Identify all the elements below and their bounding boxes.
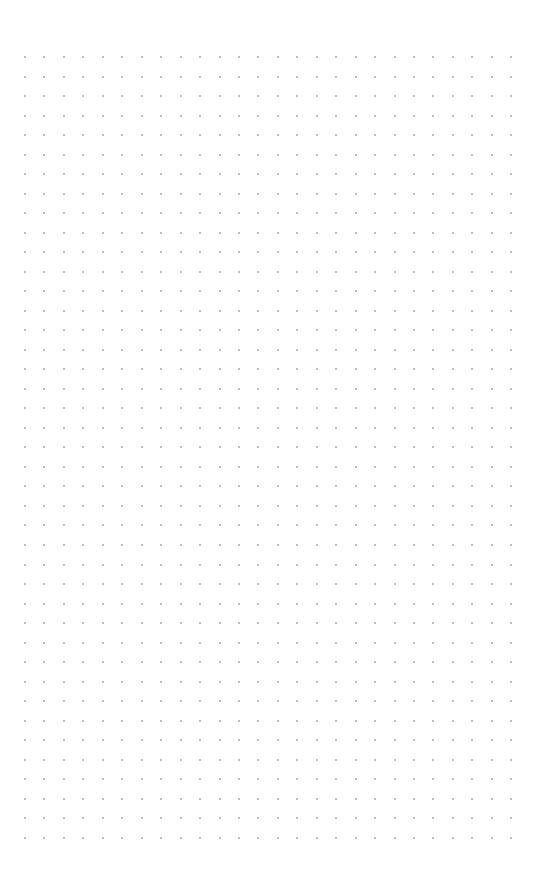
- grid-dot: [141, 622, 143, 624]
- grid-dot: [335, 798, 337, 800]
- grid-dot: [199, 798, 201, 800]
- grid-dot: [491, 622, 493, 624]
- grid-dot: [355, 661, 357, 663]
- grid-dot: [219, 798, 221, 800]
- grid-dot: [491, 739, 493, 741]
- grid-dot: [219, 154, 221, 156]
- grid-dot: [471, 798, 473, 800]
- grid-dot: [432, 798, 434, 800]
- grid-dot: [257, 407, 259, 409]
- grid-dot: [491, 817, 493, 819]
- grid-dot: [199, 446, 201, 448]
- grid-dot: [374, 798, 376, 800]
- grid-dot: [141, 173, 143, 175]
- grid-dot: [296, 368, 298, 370]
- grid-dot: [394, 603, 396, 605]
- grid-dot: [432, 407, 434, 409]
- grid-dot: [160, 193, 162, 195]
- grid-dot: [296, 466, 298, 468]
- grid-dot: [141, 310, 143, 312]
- grid-dot: [24, 388, 26, 390]
- grid-dot: [238, 524, 240, 526]
- grid-dot: [141, 700, 143, 702]
- grid-dot: [316, 739, 318, 741]
- grid-dot: [413, 271, 415, 273]
- grid-dot: [491, 329, 493, 331]
- grid-dot: [82, 290, 84, 292]
- grid-dot: [102, 251, 104, 253]
- grid-dot: [277, 329, 279, 331]
- grid-dot: [257, 95, 259, 97]
- grid-dot: [82, 466, 84, 468]
- grid-dot: [316, 193, 318, 195]
- grid-dot: [63, 837, 65, 839]
- grid-dot: [82, 232, 84, 234]
- grid-dot: [355, 193, 357, 195]
- grid-dot: [63, 603, 65, 605]
- grid-dot: [510, 329, 512, 331]
- grid-dot: [277, 56, 279, 58]
- grid-dot: [141, 349, 143, 351]
- grid-dot: [491, 95, 493, 97]
- grid-dot: [219, 193, 221, 195]
- grid-dot: [180, 446, 182, 448]
- grid-dot: [471, 603, 473, 605]
- grid-dot: [141, 544, 143, 546]
- grid-dot: [452, 232, 454, 234]
- grid-dot: [510, 407, 512, 409]
- grid-dot: [238, 329, 240, 331]
- grid-dot: [160, 154, 162, 156]
- grid-dot: [471, 700, 473, 702]
- grid-dot: [316, 349, 318, 351]
- grid-dot: [452, 485, 454, 487]
- grid-dot: [355, 446, 357, 448]
- grid-dot: [452, 134, 454, 136]
- grid-dot: [160, 778, 162, 780]
- grid-dot: [63, 564, 65, 566]
- grid-dot: [413, 485, 415, 487]
- grid-dot: [43, 466, 45, 468]
- grid-dot: [471, 642, 473, 644]
- grid-dot: [355, 232, 357, 234]
- grid-dot: [510, 76, 512, 78]
- grid-dot: [335, 388, 337, 390]
- grid-dot: [219, 56, 221, 58]
- grid-dot: [491, 603, 493, 605]
- grid-dot: [199, 466, 201, 468]
- grid-dot: [102, 778, 104, 780]
- grid-dot: [121, 173, 123, 175]
- grid-dot: [24, 583, 26, 585]
- grid-dot: [316, 622, 318, 624]
- grid-dot: [374, 603, 376, 605]
- grid-dot: [121, 759, 123, 761]
- grid-dot: [296, 739, 298, 741]
- grid-dot: [102, 564, 104, 566]
- grid-dot: [413, 778, 415, 780]
- grid-dot: [394, 232, 396, 234]
- grid-dot: [394, 661, 396, 663]
- grid-dot: [510, 642, 512, 644]
- grid-dot: [316, 251, 318, 253]
- grid-dot: [432, 134, 434, 136]
- grid-dot: [471, 544, 473, 546]
- grid-dot: [394, 76, 396, 78]
- grid-dot: [219, 817, 221, 819]
- grid-dot: [121, 271, 123, 273]
- grid-dot: [219, 700, 221, 702]
- grid-dot: [432, 251, 434, 253]
- grid-dot: [394, 212, 396, 214]
- grid-dot: [432, 368, 434, 370]
- grid-dot: [374, 349, 376, 351]
- grid-dot: [238, 739, 240, 741]
- grid-dot: [121, 310, 123, 312]
- grid-dot: [63, 427, 65, 429]
- grid-dot: [219, 720, 221, 722]
- grid-dot: [160, 368, 162, 370]
- grid-dot: [82, 76, 84, 78]
- grid-dot: [160, 446, 162, 448]
- grid-dot: [491, 290, 493, 292]
- grid-dot: [141, 661, 143, 663]
- grid-dot: [296, 212, 298, 214]
- grid-dot: [374, 212, 376, 214]
- grid-dot: [82, 583, 84, 585]
